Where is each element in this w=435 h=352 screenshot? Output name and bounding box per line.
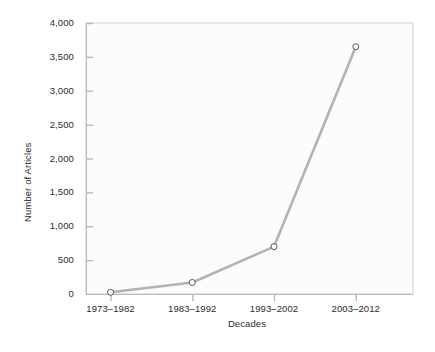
- y-tick-label: 4,000: [28, 17, 74, 28]
- data-point-marker: [353, 44, 359, 50]
- x-tick-label: 2003–2012: [301, 303, 411, 314]
- y-tick-label: 3,000: [28, 85, 74, 96]
- data-point-marker: [189, 279, 195, 285]
- y-tick-label: 1,000: [28, 220, 74, 231]
- y-tick-label: 500: [28, 254, 74, 265]
- y-tick-label: 1,500: [28, 186, 74, 197]
- y-tick-label: 2,500: [28, 119, 74, 130]
- y-tick-label: 2,000: [28, 153, 74, 164]
- plot-panel-background: [86, 23, 413, 294]
- y-tick-label: 0: [28, 288, 74, 299]
- y-tick-label: 3,500: [28, 51, 74, 62]
- x-axis-title: Decades: [0, 318, 435, 329]
- line-chart-figure: 05001,0001,5002,0002,5003,0003,5004,000 …: [0, 0, 435, 352]
- x-tick-marks: [111, 294, 356, 301]
- data-point-marker: [108, 289, 114, 295]
- y-axis-title: Number of Articles: [22, 143, 33, 222]
- data-point-marker: [271, 244, 277, 250]
